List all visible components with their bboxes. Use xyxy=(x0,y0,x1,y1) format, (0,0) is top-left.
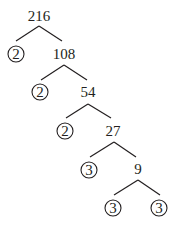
edge-108-right xyxy=(64,65,87,80)
node-27: 27 xyxy=(106,123,122,139)
prime-node-3-a: 3 xyxy=(81,162,97,178)
edge-216-left xyxy=(16,26,39,41)
factor-tree-diagram: 216 2 108 2 54 2 27 3 9 3 3 xyxy=(0,0,173,225)
node-216: 216 xyxy=(28,8,51,24)
prime-value: 3 xyxy=(109,200,117,216)
edge-9-right xyxy=(138,180,160,195)
prime-node-2-c: 2 xyxy=(57,123,73,139)
prime-value: 2 xyxy=(61,123,69,139)
prime-value: 2 xyxy=(36,84,44,100)
prime-node-2-a: 2 xyxy=(8,46,24,62)
node-9: 9 xyxy=(134,161,142,177)
edge-27-left xyxy=(90,142,114,157)
prime-node-3-b: 3 xyxy=(105,200,121,216)
edge-54-left xyxy=(66,104,88,118)
edge-27-right xyxy=(114,142,136,157)
node-108: 108 xyxy=(53,46,76,62)
prime-value: 3 xyxy=(85,162,93,178)
edge-108-left xyxy=(41,65,64,80)
prime-value: 2 xyxy=(12,46,20,62)
prime-value: 3 xyxy=(155,200,163,216)
edge-54-right xyxy=(88,104,111,118)
prime-node-2-b: 2 xyxy=(32,84,48,100)
edge-216-right xyxy=(39,26,62,41)
edge-9-left xyxy=(114,180,138,195)
prime-node-3-c: 3 xyxy=(151,200,167,216)
node-54: 54 xyxy=(81,84,97,100)
